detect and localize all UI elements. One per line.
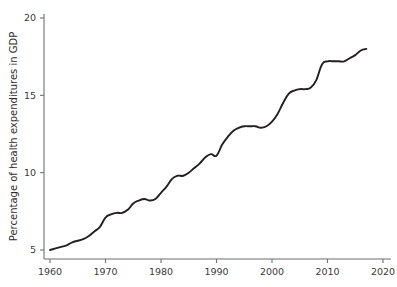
x-tick-group: 1960197019801990200020102020 bbox=[38, 259, 395, 277]
y-tick-group: 5101520 bbox=[24, 12, 44, 255]
y-tick-label: 10 bbox=[24, 167, 36, 178]
line-chart: 5101520 1960197019801990200020102020 Per… bbox=[0, 0, 397, 287]
x-tick-label: 1960 bbox=[38, 266, 62, 277]
x-tick-label: 1980 bbox=[149, 266, 173, 277]
y-tick-label: 20 bbox=[24, 12, 36, 23]
chart-container: 5101520 1960197019801990200020102020 Per… bbox=[0, 0, 397, 287]
x-tick-label: 1970 bbox=[93, 266, 117, 277]
x-tick-label: 2020 bbox=[371, 266, 395, 277]
y-axis-title: Percentage of health expenditures in GDP bbox=[8, 32, 19, 241]
y-tick-label: 15 bbox=[24, 90, 36, 101]
x-tick-label: 2000 bbox=[260, 266, 284, 277]
y-tick-label: 5 bbox=[30, 244, 36, 255]
data-series-line bbox=[50, 49, 366, 250]
x-tick-label: 2010 bbox=[315, 266, 339, 277]
x-tick-label: 1990 bbox=[204, 266, 228, 277]
